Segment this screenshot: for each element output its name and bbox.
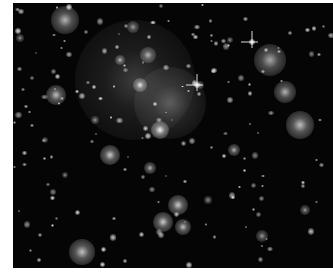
field-galaxy (58, 102, 60, 105)
field-galaxy (267, 247, 273, 252)
field-galaxy (86, 81, 90, 85)
field-galaxy (56, 6, 58, 9)
star-diffraction-spike (194, 82, 200, 88)
field-galaxy (258, 257, 263, 262)
field-galaxy (24, 105, 28, 108)
field-galaxy (127, 156, 129, 158)
field-galaxy (92, 85, 96, 89)
galaxy (227, 37, 233, 43)
field-galaxy (312, 26, 317, 31)
field-galaxy (157, 201, 159, 203)
field-galaxy (229, 192, 235, 199)
field-galaxy (210, 40, 213, 42)
field-galaxy (194, 25, 200, 29)
galaxy (91, 116, 99, 124)
field-galaxy (268, 111, 274, 115)
field-galaxy (22, 163, 27, 166)
field-galaxy (90, 140, 93, 143)
field-galaxy (187, 90, 190, 92)
field-galaxy (123, 168, 128, 171)
galaxy (256, 230, 268, 242)
field-galaxy (261, 70, 264, 73)
field-galaxy (186, 262, 192, 268)
field-galaxy (328, 33, 333, 38)
galaxy (228, 144, 240, 156)
field-galaxy (84, 30, 88, 35)
field-galaxy (264, 48, 268, 52)
field-galaxy (51, 224, 54, 227)
field-galaxy (319, 163, 324, 167)
field-galaxy (227, 97, 233, 103)
field-galaxy (75, 210, 80, 215)
field-galaxy (214, 41, 218, 46)
field-galaxy (28, 111, 30, 113)
field-galaxy (60, 47, 63, 49)
field-galaxy (184, 221, 186, 223)
galaxy (69, 239, 95, 265)
field-galaxy (238, 186, 241, 189)
field-galaxy (123, 64, 126, 67)
galaxy (16, 34, 24, 42)
field-galaxy (37, 258, 41, 262)
field-galaxy (149, 187, 154, 193)
field-galaxy (165, 175, 168, 177)
field-galaxy (55, 217, 58, 220)
field-galaxy (30, 76, 34, 80)
field-galaxy (261, 245, 263, 247)
field-galaxy (156, 229, 162, 234)
field-galaxy (305, 28, 310, 32)
galaxy (144, 162, 156, 174)
field-galaxy (145, 133, 151, 139)
field-galaxy (252, 152, 258, 159)
field-galaxy (50, 155, 54, 159)
field-galaxy (210, 146, 213, 149)
field-galaxy (308, 228, 314, 235)
field-galaxy (110, 234, 116, 240)
field-galaxy (210, 34, 213, 36)
field-galaxy (243, 169, 246, 172)
field-galaxy (163, 65, 169, 71)
field-galaxy (181, 141, 186, 146)
galaxy (175, 219, 191, 235)
field-galaxy (259, 196, 264, 201)
galaxy (204, 196, 212, 204)
field-galaxy (24, 221, 30, 228)
field-galaxy (22, 151, 26, 155)
field-galaxy (201, 4, 204, 6)
galaxy (274, 81, 296, 103)
field-galaxy (223, 43, 229, 49)
field-galaxy (257, 132, 259, 134)
field-galaxy (35, 52, 37, 54)
field-galaxy (243, 17, 249, 22)
field-galaxy (55, 74, 60, 80)
field-galaxy (238, 75, 243, 80)
field-galaxy (17, 67, 22, 70)
field-galaxy (139, 232, 144, 237)
field-galaxy (315, 201, 318, 203)
field-galaxy (251, 183, 257, 188)
field-galaxy (243, 157, 246, 160)
field-galaxy (100, 262, 105, 267)
field-galaxy (13, 121, 16, 124)
field-galaxy (189, 138, 195, 144)
field-galaxy (315, 159, 318, 161)
field-galaxy (159, 4, 163, 8)
galaxy (151, 121, 169, 139)
field-galaxy (97, 18, 103, 25)
field-galaxy (211, 70, 215, 73)
field-galaxy (101, 247, 106, 252)
field-galaxy (141, 175, 145, 179)
field-galaxy (167, 20, 170, 22)
field-galaxy (209, 19, 212, 22)
field-galaxy (181, 86, 184, 88)
field-galaxy (223, 132, 228, 135)
field-galaxy (124, 24, 128, 28)
field-galaxy (112, 217, 116, 220)
field-galaxy (213, 235, 216, 239)
field-galaxy (265, 238, 268, 240)
field-galaxy (15, 112, 21, 118)
field-galaxy (288, 31, 292, 35)
field-galaxy (43, 157, 46, 159)
field-galaxy (261, 175, 264, 177)
field-galaxy (30, 124, 34, 127)
